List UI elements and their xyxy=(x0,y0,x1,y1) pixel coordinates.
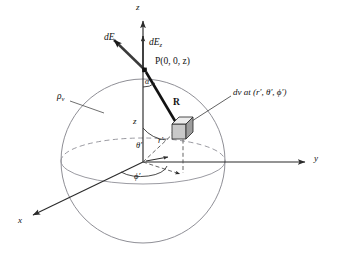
axis-label-z: z xyxy=(136,3,140,12)
rho-leader-line xyxy=(70,101,104,113)
vector-label-dEz: dEz xyxy=(149,38,162,48)
label-height-z: z xyxy=(133,117,137,126)
physics-diagram-canvas: z y x dE dEz P(0, 0, z) α R z ρv dv at (… xyxy=(0,0,344,260)
axis-x xyxy=(33,162,143,215)
rho-subscript: v xyxy=(62,95,65,102)
label-point-P: P(0, 0, z) xyxy=(155,57,190,67)
dEz-main: dE xyxy=(149,37,160,47)
vector-dE xyxy=(114,40,146,71)
axis-label-x: x xyxy=(18,216,22,225)
equator-front-solid xyxy=(61,161,225,184)
label-charge-density-rho: ρv xyxy=(57,92,65,102)
angle-phi-prime-arc xyxy=(121,166,167,176)
dEz-subscript: z xyxy=(160,41,163,48)
label-dv-coordinates: dv at (r′, θ′, ϕ′) xyxy=(233,88,286,97)
diagram-svg xyxy=(0,0,344,260)
phi-direction-arrow xyxy=(146,157,168,161)
label-angle-theta-prime: θ′ xyxy=(136,141,142,150)
label-angle-alpha: α xyxy=(145,78,149,86)
vector-label-R: R xyxy=(173,98,180,108)
axis-label-y: y xyxy=(314,154,318,163)
dv-volume-cube xyxy=(172,117,193,139)
vector-label-dE: dE xyxy=(104,33,115,43)
point-P-marker xyxy=(142,68,147,73)
label-radius-r-prime: r′ xyxy=(158,136,163,145)
label-angle-phi-prime: ϕ′ xyxy=(134,172,140,181)
